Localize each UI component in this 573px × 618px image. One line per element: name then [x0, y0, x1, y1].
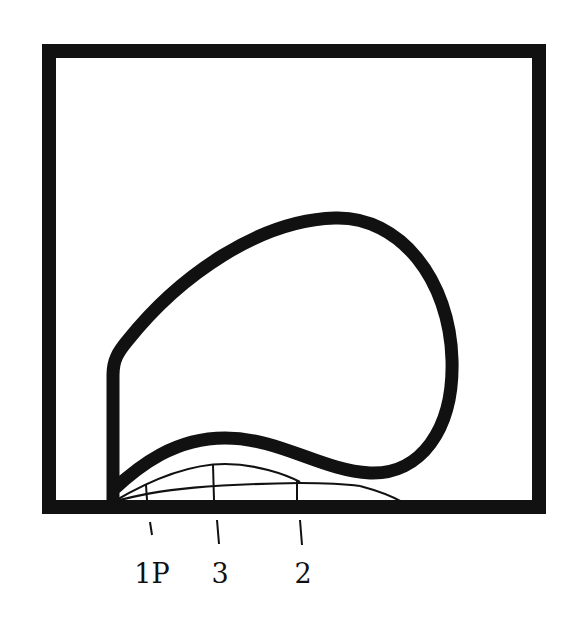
- marker-tick-3-inner: [213, 465, 214, 500]
- thin-curve-1p: [360, 486, 402, 502]
- marker-tick-1p-inner: [146, 485, 147, 500]
- label-3: 3: [211, 558, 228, 589]
- thin-curve-2: [113, 483, 360, 502]
- label-1p: 1P: [134, 558, 169, 589]
- frame-box: [49, 51, 539, 507]
- leader-tick-3: [217, 520, 219, 544]
- leader-tick-2: [300, 520, 302, 545]
- diagram-canvas: 1P 3 2: [0, 0, 573, 618]
- leader-tick-1p: [150, 522, 152, 535]
- label-2: 2: [294, 558, 311, 589]
- large-loop-curve: [113, 218, 452, 506]
